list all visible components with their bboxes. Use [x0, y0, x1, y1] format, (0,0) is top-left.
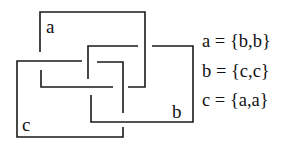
- strand-a: [40, 12, 145, 87]
- label-a: a: [46, 16, 55, 37]
- label-c: c: [22, 114, 30, 135]
- equation-b: b = {c,c}: [202, 57, 271, 87]
- equation-c: c = {a,a}: [202, 86, 271, 116]
- label-b: b: [172, 101, 182, 122]
- strand-c: [17, 61, 123, 137]
- equations: a = {b,b} b = {c,c} c = {a,a}: [202, 27, 271, 116]
- equation-a: a = {b,b}: [202, 27, 271, 57]
